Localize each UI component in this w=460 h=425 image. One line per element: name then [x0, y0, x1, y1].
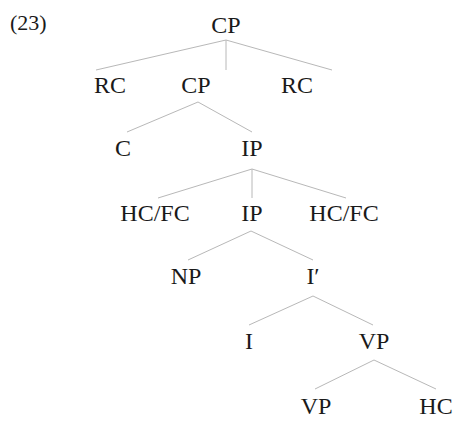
- edge-cp-ip: [198, 102, 252, 132]
- node-ip-upper: IP: [241, 135, 262, 161]
- node-ip-lower: IP: [241, 200, 262, 226]
- node-i: I: [245, 328, 253, 354]
- node-rc-left: RC: [94, 72, 126, 98]
- node-i-bar: I′: [306, 263, 319, 289]
- node-rc-right: RC: [281, 72, 313, 98]
- edge-ibar-vp: [313, 296, 373, 325]
- edge-cp-rc-right: [226, 40, 332, 70]
- node-vp-lower: VP: [301, 393, 332, 419]
- node-cp-root: CP: [211, 12, 240, 38]
- node-hcfc-right: HC/FC: [309, 200, 378, 226]
- node-c: C: [115, 135, 131, 161]
- node-hcfc-left: HC/FC: [120, 200, 189, 226]
- edge-cp-c: [127, 102, 198, 132]
- node-hc: HC: [419, 393, 452, 419]
- edge-ibar-i: [249, 296, 313, 325]
- edge-ip-hcfc-left: [158, 169, 252, 198]
- node-vp-upper: VP: [359, 328, 390, 354]
- edge-ip-np: [188, 231, 251, 260]
- edge-ip-ibar: [251, 231, 313, 260]
- edge-ip-hcfc-right: [252, 169, 346, 198]
- node-cp-inner: CP: [181, 72, 210, 98]
- tree-edges: [0, 0, 460, 425]
- edge-vp-hc: [374, 360, 436, 389]
- node-np: NP: [171, 263, 202, 289]
- edge-cp-rc-left: [96, 40, 226, 70]
- syntax-tree-diagram: (23) CP RC CP RC C IP HC/FC IP HC/FC NP …: [0, 0, 460, 425]
- edge-vp-vp: [315, 360, 374, 389]
